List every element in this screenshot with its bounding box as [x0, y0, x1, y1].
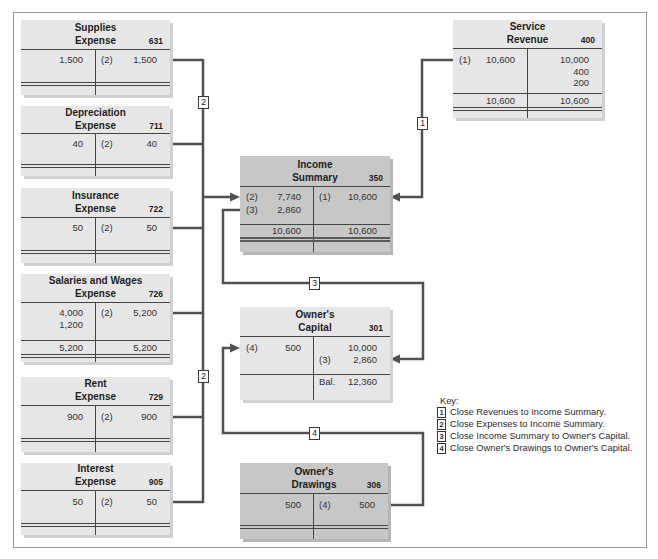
debit-amount: 500 [285, 499, 301, 511]
entry-row: 1,500 (2) 1,500 [21, 54, 170, 66]
totals-row: 5,200 5,200 [21, 342, 170, 354]
credit-amount: 900 [141, 411, 157, 423]
account-number: 301 [369, 322, 383, 335]
credit-ref: (2) [101, 138, 113, 150]
credit-amount: 10,000 [348, 342, 377, 354]
debit-amount: 50 [72, 496, 83, 508]
entry-row: (3) 2,860 [240, 204, 390, 216]
t-account-service-revenue: Service Revenue 400 (1) 10,600 10,000 40… [453, 20, 602, 118]
credit-ref: (1) [319, 191, 331, 203]
account-number: 631 [149, 35, 163, 48]
t-account-income-summary: Income Summary 350 (2) 7,740 (1) 10,600 … [240, 156, 390, 252]
credit-ref: (2) [101, 496, 113, 508]
debit-amount: 900 [67, 411, 83, 423]
t-account-depreciation-expense: Depreciation Expense 711 40 (2) 40 [21, 106, 170, 176]
balance-label: Bal. [319, 376, 335, 388]
t-account-salaries-wages-expense: Salaries and Wages Expense 726 4,000 (2)… [21, 274, 170, 362]
account-number: 350 [369, 172, 383, 185]
debit-amount: 50 [72, 222, 83, 234]
double-rule [453, 107, 602, 111]
debit-amount: 2,860 [277, 204, 301, 216]
t-account-rent-expense: Rent Expense 729 900 (2) 900 [21, 377, 170, 452]
account-title-line-2: Expense [21, 476, 170, 489]
balance-amount: 12,360 [348, 376, 377, 388]
account-title: Owner's Capital [240, 309, 390, 334]
credit-ref: (2) [101, 411, 113, 423]
account-number: 306 [367, 479, 381, 492]
debit-total: 10,600 [486, 95, 515, 107]
account-title-line-1: Rent [21, 378, 170, 391]
t-account-interest-expense: Interest Expense 905 50 (2) 50 [21, 463, 170, 535]
credit-total: 10,600 [560, 95, 589, 107]
entry-row: (4) 500 10,000 [240, 342, 390, 354]
totals-row: 10,600 10,600 [453, 95, 602, 107]
connector-label-3: 3 [309, 277, 320, 290]
debit-amount: 500 [285, 342, 301, 354]
double-rule [21, 438, 170, 442]
debit-amount: 1,500 [59, 54, 83, 66]
credit-ref: (4) [319, 499, 331, 511]
account-title-line-1: Depreciation [21, 107, 170, 120]
double-rule [21, 250, 170, 254]
account-title-line-1: Service [453, 21, 602, 34]
header-rule [240, 493, 388, 494]
account-title-line-2: Capital [240, 322, 390, 335]
debit-ref: (1) [459, 54, 471, 66]
key-item-text: Close Income Summary to Owner's Capital. [450, 431, 630, 441]
entry-row: 4,000 (2) 5,200 [21, 307, 170, 319]
credit-amount: 40 [146, 138, 157, 150]
total-rule [21, 340, 170, 341]
credit-amount: 500 [359, 499, 375, 511]
key-number-box: 4 [437, 443, 446, 454]
header-rule [240, 336, 390, 337]
connector-label-1: 1 [417, 117, 428, 130]
account-title: Service Revenue [453, 21, 602, 46]
account-title-line-2: Expense [21, 391, 170, 404]
key-number-box: 2 [437, 419, 446, 430]
double-rule [240, 237, 390, 242]
balance-rule [240, 374, 390, 375]
account-title: Interest Expense [21, 463, 170, 488]
account-title-line-2: Expense [21, 203, 170, 216]
debit-amount: 10,600 [486, 54, 515, 66]
credit-ref: (2) [101, 54, 113, 66]
credit-amount: 200 [573, 77, 589, 89]
entry-row: (2) 7,740 (1) 10,600 [240, 191, 390, 203]
credit-total: 10,600 [348, 225, 377, 237]
credit-amount: 2,860 [353, 354, 377, 366]
connector-label-4: 4 [309, 427, 320, 440]
double-rule [21, 82, 170, 86]
account-title: Salaries and Wages Expense [21, 275, 170, 300]
entry-row: 40 (2) 40 [21, 138, 170, 150]
entry-row: 1,200 [21, 319, 170, 331]
entry-row: 200 [453, 77, 602, 89]
entry-row: 50 (2) 50 [21, 222, 170, 234]
account-title-line-2: Expense [21, 288, 170, 301]
connector-label-2-upper: 2 [198, 96, 209, 109]
key-legend: Key: 1Close Revenues to Income Summary. … [437, 395, 632, 455]
credit-ref: (3) [319, 354, 331, 366]
account-title-line-1: Income [240, 159, 390, 172]
account-number: 400 [581, 34, 595, 47]
account-number: 711 [149, 120, 163, 133]
account-title-line-2: Expense [21, 120, 170, 133]
t-account-owners-capital: Owner's Capital 301 (4) 500 10,000 (3) 2… [240, 307, 390, 400]
debit-amount: 1,200 [59, 319, 83, 331]
header-rule [240, 186, 390, 187]
debit-amount: 7,740 [277, 191, 301, 203]
account-number: 722 [149, 203, 163, 216]
key-item-text: Close Owner's Drawings to Owner's Capita… [450, 443, 632, 453]
account-title: Supplies Expense [21, 22, 170, 47]
account-title-line-1: Supplies [21, 22, 170, 35]
credit-amount: 50 [146, 222, 157, 234]
t-account-owners-drawings: Owner's Drawings 306 500 (4) 500 [240, 463, 388, 539]
key-number-box: 3 [437, 431, 446, 442]
credit-ref: (2) [101, 307, 113, 319]
account-title-line-2: Expense [21, 35, 170, 48]
debit-total: 10,600 [272, 225, 301, 237]
key-item: 3Close Income Summary to Owner's Capital… [437, 431, 632, 443]
debit-amount: 40 [72, 138, 83, 150]
totals-row: 10,600 10,600 [240, 225, 390, 237]
double-rule [21, 354, 170, 358]
account-number: 726 [149, 288, 163, 301]
